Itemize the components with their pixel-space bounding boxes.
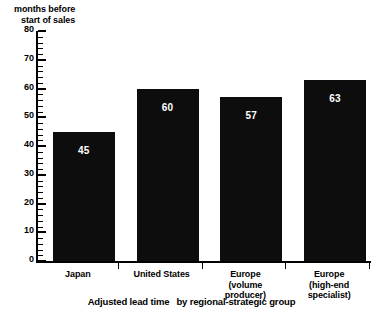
y-axis-minor-tick	[38, 66, 43, 67]
y-axis-minor-tick	[38, 135, 43, 136]
x-axis-category-label-line: producer)	[204, 290, 288, 301]
y-axis-major-tick: 50	[38, 116, 46, 118]
bar-value-label: 60	[137, 102, 199, 113]
bar: 63	[304, 80, 366, 261]
y-axis-minor-tick	[38, 54, 43, 55]
y-axis-tick-label: 80	[24, 24, 34, 35]
y-axis-minor-tick	[38, 244, 43, 245]
x-axis-category-label-line: (high-end	[287, 280, 371, 291]
y-axis-minor-tick	[38, 112, 43, 113]
x-axis-category-label-line: Europe	[204, 269, 288, 280]
bar: 60	[137, 89, 199, 262]
y-axis-minor-tick	[38, 209, 43, 210]
y-axis-minor-tick	[38, 83, 43, 84]
y-axis-major-tick: 60	[38, 88, 46, 90]
x-axis-category-label: Japan	[36, 269, 120, 280]
y-axis-tick-label: 20	[24, 197, 34, 208]
bar-value-label: 63	[304, 93, 366, 104]
y-axis-minor-tick	[38, 163, 43, 164]
x-axis-category-label: Europe(volumeproducer)	[204, 269, 288, 301]
bar: 45	[53, 132, 115, 261]
y-axis-minor-tick	[38, 37, 43, 38]
y-axis-minor-tick	[38, 255, 43, 256]
x-axis-category-label: United States	[120, 269, 204, 280]
y-axis-minor-tick	[38, 77, 43, 78]
y-axis-major-tick: 10	[38, 231, 46, 233]
bar-value-label: 57	[220, 110, 282, 121]
y-axis-minor-tick	[38, 123, 43, 124]
y-axis-minor-tick	[38, 238, 43, 239]
y-axis-minor-tick	[38, 169, 43, 170]
bar-chart-figure: months before start of sales 01020304050…	[0, 0, 383, 319]
y-axis-minor-tick	[38, 106, 43, 107]
x-axis-category-label-line: United States	[120, 269, 204, 280]
y-axis-minor-tick	[38, 152, 43, 153]
y-axis-minor-tick	[38, 215, 43, 216]
y-axis-tick-label: 50	[24, 110, 34, 121]
y-axis-minor-tick	[38, 198, 43, 199]
y-axis-minor-tick	[38, 227, 43, 228]
y-axis-minor-tick	[38, 43, 43, 44]
y-axis-major-tick: 80	[38, 30, 46, 32]
y-axis-major-tick: 0	[38, 260, 46, 262]
bar: 57	[220, 97, 282, 261]
y-axis-minor-tick	[38, 250, 43, 251]
x-axis-line	[36, 261, 371, 263]
y-axis-minor-tick	[38, 100, 43, 101]
chart-caption-part-1: Adjusted lead time	[88, 296, 170, 307]
y-axis-tick-label: 10	[24, 225, 34, 236]
y-axis-title-line-1: months before	[14, 4, 75, 14]
y-axis-tick-label: 70	[24, 53, 34, 64]
x-axis-category-label-line: Europe	[287, 269, 371, 280]
y-axis-minor-tick	[38, 94, 43, 95]
x-axis-category-label-line: Japan	[36, 269, 120, 280]
x-axis-category-label-line: (volume	[204, 280, 288, 291]
y-axis-minor-tick	[38, 140, 43, 141]
y-axis-minor-tick	[38, 186, 43, 187]
y-axis-minor-tick	[38, 129, 43, 130]
y-axis-minor-tick	[38, 192, 43, 193]
y-axis-title: months before start of sales	[14, 4, 75, 25]
y-axis-major-tick: 70	[38, 59, 46, 61]
y-axis-minor-tick	[38, 181, 43, 182]
y-axis-minor-tick	[38, 71, 43, 72]
x-axis-category-label: Europe(high-endspecialist)	[287, 269, 371, 301]
y-axis-tick-label: 40	[24, 139, 34, 150]
plot-area: 0102030405060708045605763	[36, 31, 371, 263]
y-axis-tick-label: 30	[24, 168, 34, 179]
y-axis-minor-tick	[38, 158, 43, 159]
y-axis-major-tick: 20	[38, 203, 46, 205]
y-axis-minor-tick	[38, 48, 43, 49]
x-axis-category-label-line: specialist)	[287, 290, 371, 301]
y-axis-minor-tick	[38, 221, 43, 222]
y-axis-tick-label: 60	[24, 82, 34, 93]
y-axis-tick-label: 0	[29, 254, 34, 265]
bar-value-label: 45	[53, 145, 115, 156]
y-axis-major-tick: 30	[38, 174, 46, 176]
y-axis-major-tick: 40	[38, 145, 46, 147]
